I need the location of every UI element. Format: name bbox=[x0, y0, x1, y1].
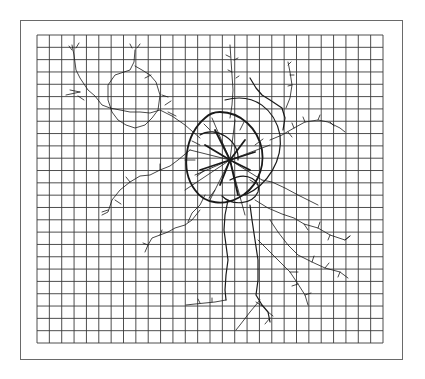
root-system bbox=[66, 43, 350, 330]
grid-lines bbox=[37, 35, 383, 343]
root-system-plot bbox=[0, 0, 425, 379]
